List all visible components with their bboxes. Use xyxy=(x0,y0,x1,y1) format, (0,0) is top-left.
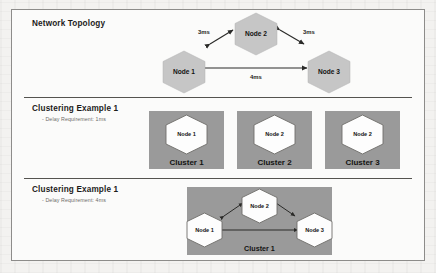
panel-divider-top-b xyxy=(24,178,412,179)
cluster-2-name: Cluster 2 xyxy=(257,158,292,167)
link-delay-label-node1-node2: 3ms xyxy=(198,29,211,35)
panel-network-topology: Network Topology 3ms 3ms 4ms xyxy=(12,10,424,97)
link-delay-label-node1-node3: 4ms xyxy=(250,74,263,80)
topology-node-2-label: Node 2 xyxy=(245,30,267,37)
cluster-node-3-label: Node 3 xyxy=(305,227,324,233)
cluster-box-1: Node 1 Cluster 1 xyxy=(149,111,224,169)
cluster-node-2-label: Node 2 xyxy=(250,203,269,209)
panel-divider-top-a xyxy=(24,97,412,98)
topology-node-2: Node 2 xyxy=(235,13,277,55)
panel-clustering-example-b: Clustering Example 1 - Delay Requirement… xyxy=(12,178,424,262)
topology-node-1-label: Node 1 xyxy=(173,68,195,75)
cluster-node-1-label: Node 1 xyxy=(195,227,214,233)
cluster-1-name: Cluster 1 xyxy=(169,158,204,167)
link-node1-node2: 3ms xyxy=(198,29,233,44)
panel-title-clustering-example-a: Clustering Example 1 xyxy=(32,104,118,113)
link-node2-node3: 3ms xyxy=(280,29,316,44)
topology-node-3-label: Node 3 xyxy=(318,68,340,75)
link-node1-node3: 4ms xyxy=(205,68,307,80)
cluster-3-name: Cluster 3 xyxy=(345,158,380,167)
topology-node-1: Node 1 xyxy=(163,51,205,93)
panel-subtitle-delay-requirement-a: - Delay Requirement: 1ms xyxy=(42,116,106,122)
panel-title-clustering-example-b: Clustering Example 1 xyxy=(32,185,118,194)
cluster-box-2: Node 2 Cluster 2 xyxy=(237,111,312,169)
topology-node-3: Node 3 xyxy=(308,51,350,93)
panel-clustering-example-a: Clustering Example 1 - Delay Requirement… xyxy=(12,97,424,178)
panel-title-network-topology: Network Topology xyxy=(32,19,105,28)
cluster-box-merged-1: Node 2 Node 1 Node 3 Cluster 1 xyxy=(187,187,332,255)
cluster-box-3: Node 2 Cluster 3 xyxy=(325,111,400,169)
cluster-2-node-label: Node 2 xyxy=(265,131,284,137)
cluster-1-node-label: Node 1 xyxy=(177,131,196,137)
cluster-merged-1-name: Cluster 1 xyxy=(244,244,275,253)
link-delay-label-node2-node3: 3ms xyxy=(303,29,316,35)
cluster-3-node-label: Node 2 xyxy=(353,131,372,137)
figure-frame: Network Topology 3ms 3ms 4ms xyxy=(11,9,425,261)
panel-subtitle-delay-requirement-b: - Delay Requirement: 4ms xyxy=(42,197,106,203)
